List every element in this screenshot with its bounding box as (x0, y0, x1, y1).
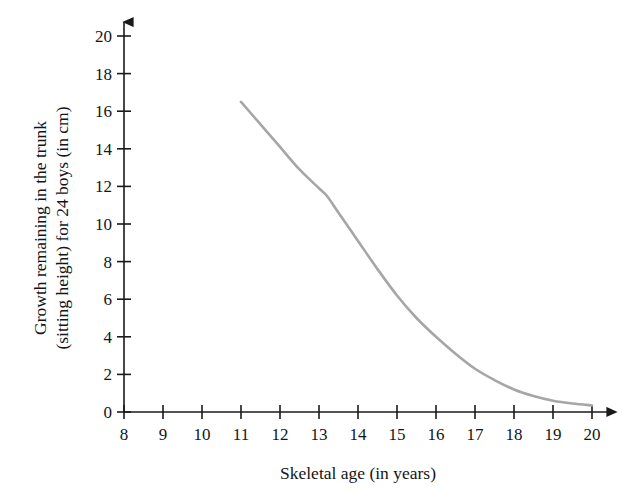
x-tick-label: 11 (233, 425, 249, 444)
x-tick-label: 14 (350, 425, 368, 444)
x-tick-label: 19 (545, 425, 562, 444)
x-axis-title: Skeletal age (in years) (280, 463, 436, 483)
y-axis-title-line2: (sitting height) for 24 boys (in cm) (52, 106, 72, 349)
x-tick-label: 16 (428, 425, 445, 444)
x-tick-label: 17 (467, 425, 485, 444)
x-tick-label: 12 (272, 425, 289, 444)
y-tick-label: 14 (95, 140, 113, 159)
y-tick-label: 16 (95, 102, 112, 121)
y-tick-label: 12 (95, 177, 112, 196)
y-tick-label: 6 (104, 290, 113, 309)
x-tick-label: 13 (311, 425, 328, 444)
x-tick-label: 15 (389, 425, 406, 444)
y-tick-label: 4 (104, 328, 113, 347)
growth-remaining-line-chart: Growth remaining in the trunk (sitting h… (0, 0, 638, 502)
y-tick-label: 8 (104, 253, 113, 272)
y-axis-title-line1: Growth remaining in the trunk (30, 121, 50, 335)
x-tick-label: 9 (159, 425, 168, 444)
x-tick-label: 20 (584, 425, 601, 444)
x-tick-label: 8 (120, 425, 129, 444)
x-tick-label: 10 (194, 425, 211, 444)
y-tick-label: 18 (95, 65, 112, 84)
y-tick-label: 2 (104, 365, 113, 384)
x-tick-label: 18 (506, 425, 523, 444)
y-tick-label: 10 (95, 215, 112, 234)
y-tick-label: 20 (95, 27, 112, 46)
y-tick-label: 0 (104, 403, 113, 422)
chart-container: Growth remaining in the trunk (sitting h… (0, 0, 638, 502)
